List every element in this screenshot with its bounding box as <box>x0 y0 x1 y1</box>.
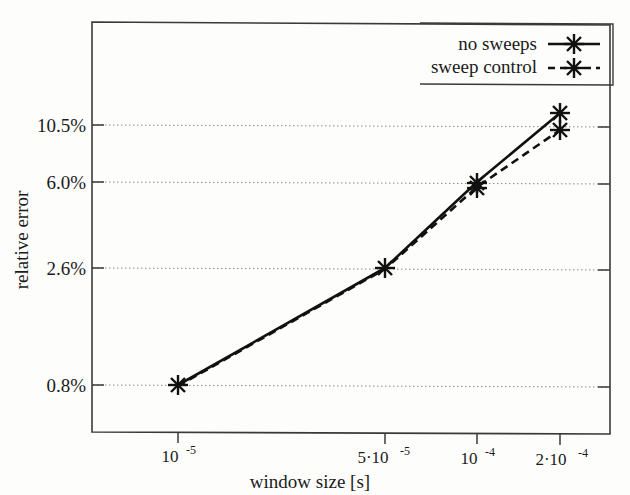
chart-legend: no sweeps sweep control <box>420 23 613 85</box>
x-tick-label-0: 10 -5 <box>162 443 197 466</box>
x-tick-label-2: 10 -4 <box>461 445 496 468</box>
x-tick-label-1: 5·10 -5 <box>357 444 410 467</box>
x-tick-mantissa-0: 10 <box>162 447 179 466</box>
relative-error-line-chart: 10.5% 6.0% 2.6% 0.8% relative error 10 -… <box>0 0 630 495</box>
plot-frame <box>92 22 610 434</box>
legend-label-no-sweeps: no sweeps <box>458 33 537 54</box>
gridline-2-6 <box>93 268 610 270</box>
x-tick-mantissa-1: 5·10 <box>357 448 388 467</box>
data-point-marker <box>168 375 188 395</box>
data-point-marker <box>375 258 395 278</box>
legend-label-sweep-control: sweep control <box>431 56 537 77</box>
y-axis-ticks <box>92 125 610 387</box>
grid-lines <box>93 125 610 387</box>
y-tick-label-0: 10.5% <box>37 115 86 136</box>
y-axis-title: relative error <box>11 190 32 289</box>
series-markers-no-sweeps <box>168 103 570 395</box>
x-axis-title: window size [s] <box>250 471 370 492</box>
x-tick-exponent-2: -4 <box>485 445 495 459</box>
data-point-marker <box>550 120 570 140</box>
x-tick-exponent-1: -5 <box>400 444 410 458</box>
y-tick-label-3: 0.8% <box>46 375 86 396</box>
series-line-no-sweeps <box>178 113 560 385</box>
gridline-6-0 <box>93 182 610 184</box>
legend-marker-sweep-control <box>564 58 584 78</box>
legend-marker-no-sweeps <box>564 34 584 54</box>
x-tick-label-3: 2·10 -4 <box>535 446 588 469</box>
x-tick-exponent-0: -5 <box>186 443 196 457</box>
x-tick-mantissa-2: 10 <box>461 449 478 468</box>
x-tick-mantissa-3: 2·10 <box>535 450 566 469</box>
gridline-10-5 <box>93 125 610 127</box>
y-tick-label-1: 6.0% <box>46 172 86 193</box>
y-tick-label-2: 2.6% <box>46 258 86 279</box>
series-markers-sweep-control <box>467 120 570 198</box>
series-line-sweep-control <box>178 130 560 386</box>
data-point-marker <box>467 178 487 198</box>
x-tick-exponent-3: -4 <box>578 446 588 460</box>
chart-page: 10.5% 6.0% 2.6% 0.8% relative error 10 -… <box>0 0 630 495</box>
